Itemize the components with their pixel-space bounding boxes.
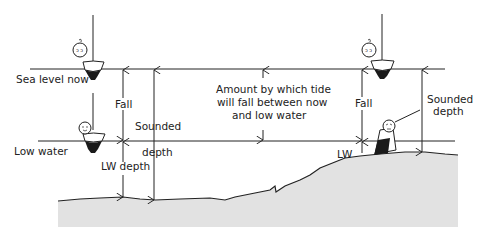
- tide-diagram: ɔ ɔ ɔ ɔ Sea level now Low wa: [0, 0, 500, 240]
- tide-note-line3: and low water: [232, 109, 307, 121]
- sounded-label: Sounded: [427, 93, 473, 105]
- depth-label: depth: [142, 146, 173, 158]
- boat-icon: [79, 122, 105, 153]
- fall-label: Fall: [115, 98, 132, 110]
- lw-label: LW: [337, 148, 353, 160]
- depth-label: depth: [433, 105, 464, 117]
- sounded-label: Sounded: [135, 120, 181, 132]
- svg-text:ɔ ɔ: ɔ ɔ: [76, 47, 83, 53]
- low-water-label: Low water: [14, 145, 69, 157]
- tide-note-line1: Amount by which tide: [216, 83, 331, 95]
- boat-icon: ɔ ɔ: [73, 15, 104, 80]
- svg-text:ɔ ɔ: ɔ ɔ: [365, 47, 372, 53]
- lw-depth-label: LW depth: [101, 160, 150, 172]
- grounded-boat-icon: [374, 110, 420, 155]
- sea-level-now-label: Sea level now: [16, 73, 89, 85]
- tide-note-line2: will fall between now: [217, 96, 328, 108]
- fall-label: Fall: [355, 97, 372, 109]
